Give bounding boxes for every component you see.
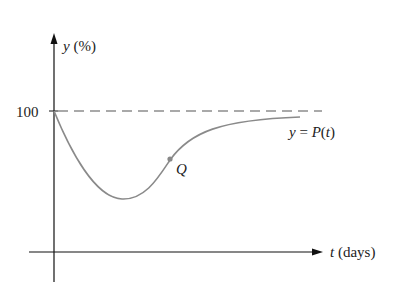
tick-label-100: 100 [16,104,39,120]
chart-canvas: y (%) 100 t (days) y = P(t) Q [0,0,407,295]
point-q [167,156,172,161]
x-axis-label: t (days) [330,244,375,261]
y-axis-label: y (%) [61,38,96,55]
curve-p-of-t [54,111,300,199]
y-axis-arrow-icon [51,33,58,44]
x-axis-arrow-icon [312,249,323,256]
curve-label: y = P(t) [287,124,335,141]
point-q-label: Q [176,161,187,177]
